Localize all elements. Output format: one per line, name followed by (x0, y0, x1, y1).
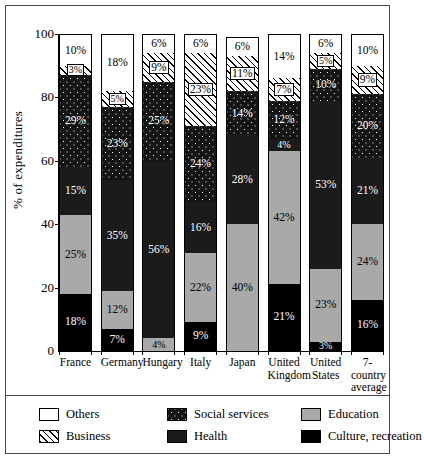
segment-value-label: 35% (107, 230, 128, 242)
y-tick-0: 0 (18, 343, 59, 359)
bar-segment-others: 6% (142, 34, 175, 53)
bar-segment-health: 21% (351, 158, 384, 225)
bar-segment-health: 56% (142, 161, 175, 339)
bar-segment-culture: 9% (184, 322, 217, 351)
segment-value-label: 10% (315, 79, 336, 91)
bar-segment-business: 23% (184, 53, 217, 126)
x-tickmark (268, 351, 269, 355)
bar-segment-health: 4% (268, 139, 301, 152)
x-tickmark (341, 351, 342, 355)
bar-segment-health: 28% (226, 135, 259, 224)
plot-area: 100 80 60 40 20 0 10%3%29%15%25%18%18%5%… (58, 34, 384, 352)
culture-recreation-swatch (301, 430, 321, 443)
segment-value-label: 14% (232, 108, 253, 120)
segment-value-label: 16% (190, 222, 211, 234)
segment-value-label: 6% (193, 38, 208, 50)
x-tickmark (300, 351, 301, 355)
legend-item-education[interactable]: Education (301, 403, 424, 425)
bar-segment-others: 6% (309, 34, 342, 53)
x-tickmark (133, 351, 134, 355)
segment-value-label: 22% (190, 282, 211, 294)
segment-value-label: 21% (273, 311, 294, 323)
x-label-line: Italy (184, 356, 217, 369)
y-tick-40: 40 (18, 216, 59, 232)
x-tickmark (101, 351, 102, 355)
bar-column: 6%9%25%56%4% (142, 34, 175, 351)
x-tickmark (351, 351, 352, 355)
y-tick-20: 20 (18, 280, 59, 296)
x-axis-ticks (59, 351, 384, 355)
x-tickmark (216, 351, 217, 355)
bar-segment-others: 10% (59, 34, 92, 66)
x-tickmark (59, 351, 60, 355)
x-label-hungary: Hungary (142, 356, 175, 394)
segment-value-label: 23% (315, 299, 336, 311)
x-tickmark (309, 351, 310, 355)
x-label-france: France (59, 356, 92, 394)
segment-value-label: 40% (232, 282, 253, 294)
segment-value-label: 23% (107, 138, 128, 150)
bar-segment-education: 24% (351, 224, 384, 300)
segment-value-label: 18% (107, 57, 128, 69)
segment-value-label: 20% (357, 120, 378, 132)
business-swatch (39, 430, 59, 443)
x-tickmark (184, 351, 185, 355)
x-tickmark (383, 351, 384, 355)
legend-item-social-services[interactable]: Social services (167, 403, 301, 425)
segment-value-label: 25% (65, 249, 86, 261)
legend-label: Others (66, 407, 99, 422)
segment-value-label: 10% (65, 45, 86, 57)
segment-value-label: 24% (357, 256, 378, 268)
x-tickmark (258, 351, 259, 355)
x-label-germany: Germany (101, 356, 134, 394)
x-tickmark (142, 351, 143, 355)
bar-segment-health: 16% (184, 202, 217, 253)
bar-column: 10%9%20%21%24%16% (351, 34, 384, 351)
others-swatch (39, 408, 59, 421)
segment-value-label: 7% (274, 83, 293, 97)
x-tickmark (91, 351, 92, 355)
y-tick-80: 80 (18, 89, 59, 105)
health-swatch (167, 430, 187, 443)
segment-value-label: 15% (65, 185, 86, 197)
bar-segment-business: 9% (142, 53, 175, 82)
x-label-italy: Italy (184, 356, 217, 394)
segment-value-label: 21% (357, 185, 378, 197)
legend-item-business[interactable]: Business (39, 425, 167, 447)
legend-item-health[interactable]: Health (167, 425, 301, 447)
segment-value-label: 5% (109, 93, 126, 105)
bar-segment-culture: 18% (59, 294, 92, 351)
bar-segment-others: 14% (268, 34, 301, 78)
bar-group: 10%3%29%15%25%18%18%5%23%35%12%7%6%9%25%… (59, 34, 384, 351)
segment-value-label: 9% (358, 73, 377, 87)
bar-segment-education: 4% (142, 338, 175, 351)
bar-segment-culture: 21% (268, 284, 301, 351)
social-services-swatch (167, 408, 187, 421)
bar-segment-social: 12% (268, 101, 301, 139)
bar-column: 6%11%14%28%40% (226, 34, 259, 351)
legend-item-others[interactable]: Others (39, 403, 167, 425)
bar-segment-business: 3% (59, 66, 92, 76)
bar-segment-health: 53% (309, 101, 342, 269)
x-label-line: 7-country (351, 356, 384, 381)
segment-value-label: 16% (357, 319, 378, 331)
x-label-line: Japan (226, 356, 259, 369)
bar-segment-education: 25% (59, 215, 92, 294)
bar-column: 14%7%12%4%42%21% (268, 34, 301, 351)
segment-value-label: 18% (65, 316, 86, 328)
legend-item-culture-recreation[interactable]: Culture, recreation (301, 425, 424, 447)
segment-value-label: 12% (107, 304, 128, 316)
legend-label: Social services (194, 407, 269, 422)
x-label-line: United (268, 356, 301, 369)
bar-segment-health: 35% (101, 180, 134, 291)
segment-value-label: 4% (152, 340, 165, 350)
bar-segment-culture: 3% (309, 342, 342, 352)
bar-segment-social: 25% (142, 82, 175, 161)
bar-segment-social: 14% (226, 91, 259, 135)
x-label-japan: Japan (226, 356, 259, 394)
segment-value-label: 9% (193, 330, 208, 342)
bar-column: 6%23%24%16%22%9% (184, 34, 217, 351)
segment-value-label: 10% (357, 45, 378, 57)
segment-value-label: 3% (67, 64, 84, 76)
